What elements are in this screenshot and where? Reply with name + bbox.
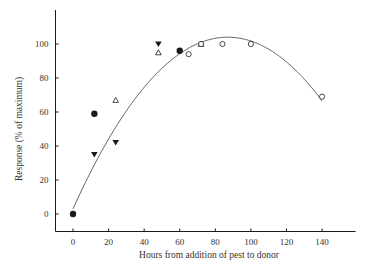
triangle-down-filled-marker [91, 152, 98, 158]
y-tick-label: 80 [40, 73, 50, 83]
y-axis-label: Response (% of maximum) [14, 77, 25, 181]
y-tick-label: 40 [40, 141, 50, 151]
triangle-up-open-marker [113, 97, 119, 102]
axes [56, 10, 356, 232]
triangle-up-open-marker [156, 50, 162, 55]
x-tick-label: 140 [315, 237, 329, 247]
fit-curve [73, 37, 322, 209]
y-tick-label: 0 [44, 209, 49, 219]
y-tick-label: 60 [40, 107, 50, 117]
data-points [70, 41, 325, 217]
circle-filled-marker [177, 48, 183, 54]
chart: 020406080100 020406080100120140 Hours fr… [0, 0, 373, 273]
circle-open-marker [319, 94, 324, 99]
circle-filled-marker [91, 111, 97, 117]
y-axis-ticks: 020406080100 [35, 39, 59, 219]
triangle-down-filled-marker [112, 140, 119, 146]
x-tick-label: 0 [71, 237, 76, 247]
x-tick-label: 20 [104, 237, 114, 247]
x-tick-label: 120 [280, 237, 294, 247]
x-axis-label: Hours from addition of pest to donor [139, 250, 280, 260]
circle-filled-marker [70, 211, 76, 217]
x-tick-label: 80 [211, 237, 221, 247]
x-tick-label: 40 [140, 237, 150, 247]
circle-open-marker [248, 41, 253, 46]
y-tick-label: 20 [40, 175, 50, 185]
circle-open-marker [220, 41, 225, 46]
circle-open-marker [198, 41, 203, 46]
y-tick-label: 100 [35, 39, 49, 49]
x-tick-label: 100 [244, 237, 258, 247]
x-tick-label: 60 [175, 237, 185, 247]
triangle-down-filled-marker [155, 41, 162, 47]
circle-open-marker [186, 52, 191, 57]
